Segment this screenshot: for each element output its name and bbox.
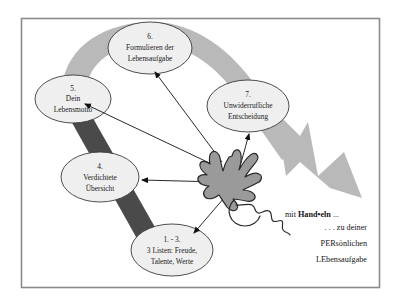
caption-line2: . . . zu deiner [324,223,367,232]
node-number: 5. [70,84,76,93]
node-line-2: Entscheidung [228,112,269,121]
node-number: 6. [147,32,153,41]
caption-line4: LEbensaufgabe [316,255,367,264]
svg-text:mit Hand•eln ...: mit Hand•eln ... [285,210,339,219]
node-line-2: Talente, Werte [151,257,194,266]
node-number: 7. [245,90,251,99]
node-number: 1. - 3. [163,235,180,244]
caption-line1-plain: mit [285,210,298,219]
node-entscheidung[interactable]: 7. Unwiderrufliche Entscheidung [207,80,289,132]
node-line-1: Verdichtete [83,173,117,182]
node-line-2: Lebensmotto [54,105,93,114]
node-line-1: Dein [66,94,81,103]
node-lebensmotto[interactable]: 5. Dein Lebensmotto [35,75,111,123]
node-listen[interactable]: 1. - 3. 3 Listen: Freude, Talente, Werte [131,224,213,276]
process-diagram-canvas: 6. Formulieren der Lebensaufgabe 5. Dein… [0,0,402,305]
diagram-root: 6. Formulieren der Lebensaufgabe 5. Dein… [0,0,402,305]
node-formulieren[interactable]: 6. Formulieren der Lebensaufgabe [108,22,192,74]
caption-line1-bold: Hand•eln [298,210,331,219]
node-uebersicht[interactable]: 4. Verdichtete Übersicht [61,152,139,202]
node-line-1: Formulieren der [126,43,174,52]
node-line-2: Lebensaufgabe [128,54,173,63]
node-line-1: 3 Listen: Freude, [147,246,197,255]
caption-line1-tail: ... [331,210,339,219]
node-line-2: Übersicht [86,184,116,193]
node-line-1: Unwiderrufliche [224,101,274,110]
caption-line3: PERsönlichen [321,239,367,248]
node-number: 4. [97,162,103,171]
